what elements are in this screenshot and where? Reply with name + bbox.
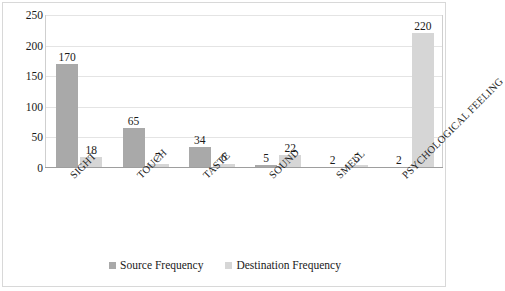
bar-group: 25 [322, 15, 368, 168]
gridline [46, 107, 442, 108]
bar-value-label: 5 [263, 152, 269, 164]
bar-value-label: 220 [414, 20, 431, 32]
y-tick-label: 150 [5, 71, 43, 82]
y-tick-label: 200 [5, 41, 43, 52]
bar-group: 17018 [56, 15, 102, 168]
chart-legend: Source Frequency Destination Frequency [3, 259, 447, 271]
chart-figure: 250 200 150 100 50 0 1701865734652225222… [2, 2, 446, 287]
bar-group: 657 [123, 15, 169, 168]
bar-group: 346 [189, 15, 235, 168]
gridline [46, 137, 442, 138]
bar-source[interactable]: 65 [123, 128, 145, 168]
y-tick-label: 0 [5, 163, 43, 174]
bar-source[interactable]: 170 [56, 64, 78, 168]
legend-item-source[interactable]: Source Frequency [109, 259, 203, 271]
legend-swatch-destination-icon [225, 262, 232, 269]
gridline [46, 15, 442, 16]
gridline [46, 46, 442, 47]
bar-value-label: 170 [59, 51, 76, 63]
y-tick-label: 50 [5, 132, 43, 143]
bar-value-label: 65 [128, 115, 140, 127]
bar-value-label: 2 [330, 154, 336, 166]
bar-group: 522 [255, 15, 301, 168]
plot-area: 17018657346522252220 [45, 15, 443, 168]
legend-item-destination[interactable]: Destination Frequency [225, 259, 340, 271]
bar-value-label: 34 [194, 134, 206, 146]
y-tick-label: 250 [5, 10, 43, 21]
bar-value-label: 2 [396, 154, 402, 166]
gridline [46, 76, 442, 77]
x-axis-line [45, 167, 443, 168]
legend-swatch-source-icon [109, 262, 116, 269]
y-axis: 250 200 150 100 50 0 [3, 15, 43, 168]
legend-label-source: Source Frequency [120, 259, 203, 271]
legend-label-destination: Destination Frequency [236, 259, 340, 271]
y-tick-label: 100 [5, 102, 43, 113]
